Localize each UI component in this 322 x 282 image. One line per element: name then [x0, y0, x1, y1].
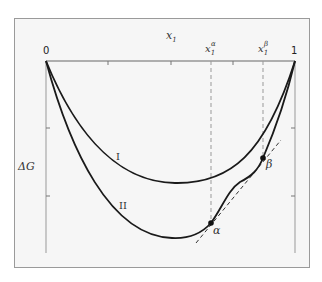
gibbs-energy-diagram: [0, 0, 322, 282]
y-axis-label: ΔG: [18, 160, 35, 173]
point-beta: [260, 155, 266, 161]
curve-II: [46, 61, 295, 238]
common-tangent-line: [196, 140, 281, 243]
alpha-point-label: α: [213, 224, 220, 237]
x1-beta-label: x1β: [258, 42, 272, 57]
x-tick-1: 1: [291, 45, 297, 56]
x1-alpha-label: x1α: [205, 42, 220, 57]
x-tick-0: 0: [43, 45, 49, 56]
curve-I: [46, 61, 295, 183]
x-axis-label: x1: [166, 29, 177, 44]
curve-I-label: I: [116, 151, 120, 162]
curve-II-label: II: [119, 200, 127, 211]
beta-point-label: β: [266, 158, 272, 171]
